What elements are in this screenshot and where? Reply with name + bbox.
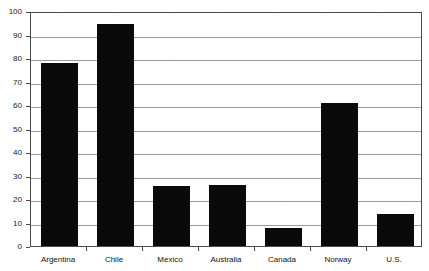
x-axis-tick-mark-4: [254, 247, 255, 251]
gridline-70: [31, 84, 421, 85]
x-axis-tick-mark-5: [310, 247, 311, 251]
plot-area: [30, 12, 422, 247]
x-axis-tick-mark-2: [142, 247, 143, 251]
bar-u-s: [377, 214, 414, 246]
bar-chart-figure: 0102030405060708090100 ArgentinaChileMex…: [0, 0, 429, 271]
x-axis-tick-mark-6: [366, 247, 367, 251]
y-axis-tick-label-80: 80: [13, 55, 22, 63]
x-axis-tick-mark-1: [86, 247, 87, 251]
x-axis-tick-mark-3: [198, 247, 199, 251]
y-axis-tick-label-90: 90: [13, 32, 22, 40]
x-axis-category-label-5: Norway: [324, 255, 351, 265]
bar-norway: [321, 103, 358, 246]
bar-argentina: [41, 63, 78, 246]
y-axis-tick-label-0: 0: [18, 243, 22, 251]
gridline-90: [31, 37, 421, 38]
gridline-50: [31, 131, 421, 132]
gridline-80: [31, 60, 421, 61]
bar-chile: [97, 24, 134, 246]
bar-mexico: [153, 186, 190, 246]
y-axis-tick-label-60: 60: [13, 102, 22, 110]
x-axis-category-label-2: Mexico: [157, 255, 182, 265]
gridline-30: [31, 178, 421, 179]
y-axis-tick-label-70: 70: [13, 79, 22, 87]
x-axis-category-label-1: Chile: [105, 255, 123, 265]
y-axis-tick-label-20: 20: [13, 196, 22, 204]
y-axis-tick-label-50: 50: [13, 126, 22, 134]
y-axis-tick-label-30: 30: [13, 173, 22, 181]
y-axis-tick-label-10: 10: [13, 220, 22, 228]
y-axis: 0102030405060708090100: [0, 12, 30, 247]
y-axis-tick-label-40: 40: [13, 149, 22, 157]
chart-title-clipped: [0, 0, 429, 6]
gridline-60: [31, 107, 421, 108]
bar-canada: [265, 228, 302, 246]
bar-australia: [209, 185, 246, 246]
x-axis-category-label-0: Argentina: [41, 255, 75, 265]
x-axis-category-label-3: Australia: [210, 255, 241, 265]
x-axis-category-label-4: Canada: [268, 255, 296, 265]
gridline-40: [31, 154, 421, 155]
y-axis-tick-label-100: 100: [9, 8, 22, 16]
x-axis-category-label-6: U.S.: [386, 255, 402, 265]
x-axis: ArgentinaChileMexicoAustraliaCanadaNorwa…: [30, 247, 422, 271]
